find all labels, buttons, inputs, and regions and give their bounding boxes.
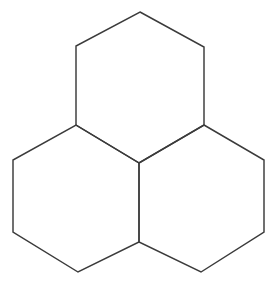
diagram-background bbox=[0, 0, 275, 292]
fused-hexagon-diagram: Fused tricyclic hexagon skeleton Three r… bbox=[0, 0, 275, 292]
figure-canvas: Fused tricyclic hexagon skeleton Three r… bbox=[0, 0, 275, 292]
